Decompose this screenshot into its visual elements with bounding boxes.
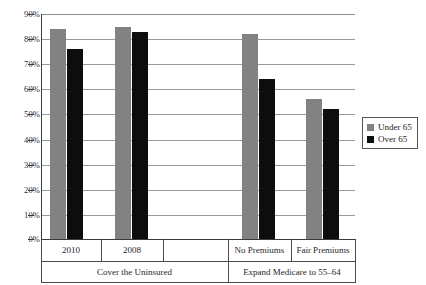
- category-label-no-premiums: No Premiums: [228, 246, 291, 255]
- bar-under65-fair-premiums: [306, 99, 322, 239]
- cataxis-hsep-left: [41, 261, 228, 262]
- bar-over65-fair-premiums: [323, 109, 339, 239]
- y-axis-tick-mark-0: [28, 239, 34, 240]
- y-axis-tick-label-40: 40%: [0, 136, 40, 145]
- y-axis-tick-label-10: 10%: [0, 211, 40, 220]
- y-axis-tick-mark-40: [28, 140, 34, 141]
- bar-under65-no-premiums: [242, 34, 258, 239]
- cataxis-hsep-right-bottom: [228, 282, 356, 283]
- group-label-expand-medicare: Expand Medicare to 55–64: [228, 268, 356, 277]
- group-label-cover-the-uninsured: Cover the Uninsured: [41, 268, 228, 277]
- y-axis-tick-mark-70: [28, 64, 34, 65]
- y-axis-line: [41, 14, 42, 240]
- y-axis-tick-mark-60: [28, 89, 34, 90]
- gridline-80: [41, 39, 355, 40]
- over-65-swatch-icon: [367, 136, 374, 143]
- legend: Under 65 Over 65: [362, 117, 418, 149]
- gridline-60: [41, 89, 355, 90]
- y-axis-tick-label-90: 90%: [0, 10, 40, 19]
- category-label-2010: 2010: [41, 246, 101, 255]
- y-axis-tick-mark-10: [28, 215, 34, 216]
- y-axis-tick-label-30: 30%: [0, 161, 40, 170]
- y-axis-tick-mark-50: [28, 114, 34, 115]
- cataxis-sep-2: [163, 239, 164, 261]
- bar-under65-2010: [50, 29, 66, 239]
- y-axis-tick-label-80: 80%: [0, 35, 40, 44]
- category-label-2008: 2008: [101, 246, 163, 255]
- bar-over65-2010: [67, 49, 83, 239]
- y-axis-tick-label-50: 50%: [0, 110, 40, 119]
- bar-over65-2008: [132, 32, 148, 239]
- y-axis-tick-label-0: 0%: [0, 235, 40, 244]
- category-label-fair-premiums: Fair Premiums: [291, 246, 355, 255]
- cataxis-hsep-left-bottom: [41, 282, 228, 283]
- y-axis-tick-label-70: 70%: [0, 60, 40, 69]
- legend-label-under-65: Under 65: [378, 123, 412, 132]
- gridline-70: [41, 64, 355, 65]
- legend-item-under-65[interactable]: Under 65: [367, 121, 412, 133]
- cataxis-hsep-right: [228, 261, 356, 262]
- bar-over65-no-premiums: [259, 79, 275, 239]
- y-axis-tick-label-60: 60%: [0, 85, 40, 94]
- x-axis-line: [41, 239, 355, 240]
- under-65-swatch-icon: [367, 124, 374, 131]
- y-axis-tick-label-20: 20%: [0, 186, 40, 195]
- gridline-90: [41, 14, 355, 15]
- y-axis-tick-mark-80: [28, 39, 34, 40]
- bar-under65-2008: [115, 27, 131, 239]
- legend-item-over-65[interactable]: Over 65: [367, 133, 412, 145]
- legend-label-over-65: Over 65: [378, 135, 407, 144]
- bar-chart: 90% 80% 70% 60% 50% 40% 30% 20% 10% 0%: [0, 0, 426, 285]
- y-axis-tick-mark-20: [28, 190, 34, 191]
- y-axis-tick-mark-30: [28, 165, 34, 166]
- y-axis-tick-mark-90: [28, 14, 34, 15]
